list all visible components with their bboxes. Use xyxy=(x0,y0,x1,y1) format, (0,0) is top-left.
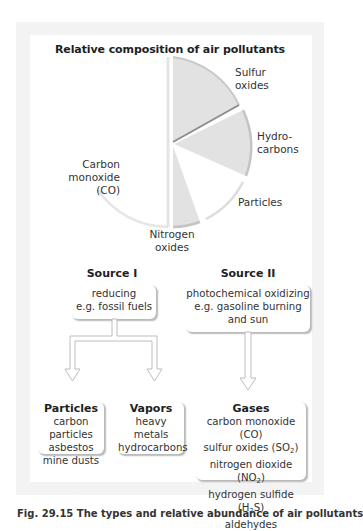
arrow-source2-down xyxy=(240,332,256,390)
gases-box: Gases carbon monoxide (CO) sulfur oxides… xyxy=(196,402,306,480)
figure-caption: Fig. 29.15 The types and relative abunda… xyxy=(17,508,363,519)
vapors-box: Vapors heavy metals hydrocarbons xyxy=(118,402,184,454)
arrow-source1-split xyxy=(65,319,162,381)
particles-box: Particles carbon particles asbestos mine… xyxy=(38,402,104,454)
